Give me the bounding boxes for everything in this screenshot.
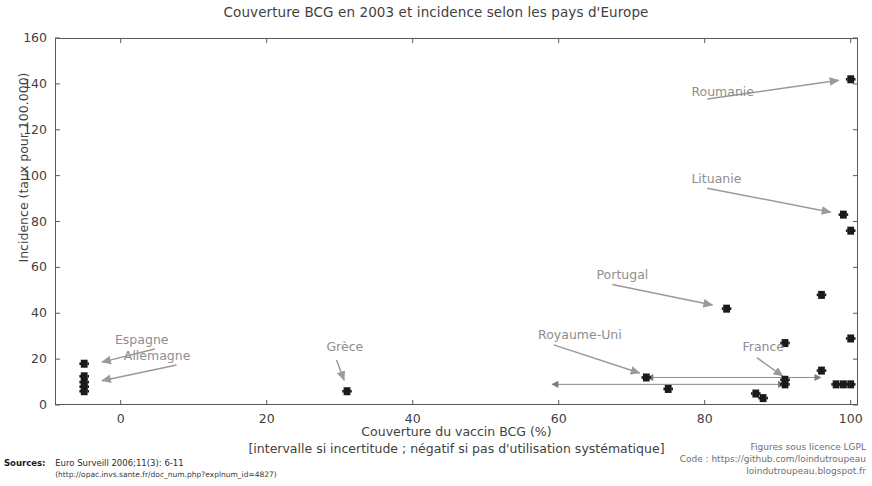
chart-figure: Couverture BCG en 2003 et incidence selo… [0, 0, 872, 486]
annotation-label: France [743, 339, 785, 354]
y-tick-label: 120 [7, 122, 47, 137]
sources-citation: Euro Surveill 2006;11(3): 6-11 [55, 458, 184, 468]
x-axis-label: Couverture du vaccin BCG (%) [55, 424, 858, 440]
annotation-label: Portugal [597, 267, 649, 282]
credits-block: Figures sous licence LGPL Code : https:/… [680, 441, 866, 477]
annotation-label: Royaume-Uni [538, 327, 622, 342]
annotation-label: Espagne [115, 332, 169, 347]
credits-blog-url: loindutroupeau.blogspot.fr [680, 465, 866, 477]
y-tick-label: 40 [7, 305, 47, 320]
y-tick-label: 60 [7, 259, 47, 274]
y-tick-label: 20 [7, 351, 47, 366]
y-tick-label: 140 [7, 76, 47, 91]
y-tick-label: 0 [7, 397, 47, 412]
y-tick-label: 160 [7, 30, 47, 45]
sources-block: Sources: Euro Surveill 2006;11(3): 6-11 … [4, 458, 277, 480]
sources-label: Sources: [4, 458, 45, 468]
y-tick-label: 80 [7, 214, 47, 229]
sources-text: Euro Surveill 2006;11(3): 6-11 (http://o… [55, 458, 277, 480]
credits-code-url: Code : https://github.com/loindutroupeau [680, 453, 866, 465]
annotation-label: Roumanie [691, 84, 754, 99]
y-tick-label: 100 [7, 168, 47, 183]
annotation-label: Allemagne [124, 348, 191, 363]
annotation-label: Lituanie [691, 171, 741, 186]
annotation-label: Grèce [326, 339, 363, 354]
credits-license: Figures sous licence LGPL [680, 441, 866, 453]
chart-title: Couverture BCG en 2003 et incidence selo… [0, 4, 872, 20]
sources-url: (http://opac.invs.sante.fr/doc_num.php?e… [55, 470, 277, 479]
